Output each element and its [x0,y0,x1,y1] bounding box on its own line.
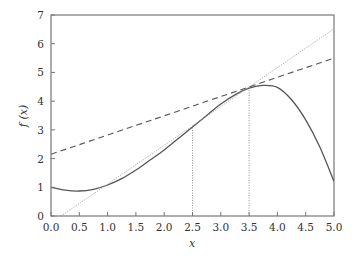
y-tick-label: 0 [37,210,44,222]
x-tick-label: 4.5 [297,221,314,233]
x-tick-label: 5.0 [326,221,343,233]
x-tick-label: 4.0 [269,221,286,233]
y-tick-label: 5 [37,66,44,78]
y-tick-label: 6 [37,38,44,50]
ticks-layer: 0.00.51.01.52.02.53.03.54.04.55.00123456… [37,9,342,233]
y-tick-label: 7 [37,9,44,21]
y-tick-label: 4 [37,95,44,107]
x-tick-label: 2.0 [156,221,173,233]
x-tick-label: 1.5 [128,221,145,233]
chart: 0.00.51.01.52.02.53.03.54.04.55.00123456… [0,0,356,258]
x-tick-label: 0.5 [71,221,88,233]
x-tick-label: 2.5 [184,221,201,233]
y-axis-label: f (x) [17,105,30,128]
y-tick-label: 3 [37,124,44,136]
x-axis-label: x [189,237,196,250]
x-tick-label: 1.0 [99,221,116,233]
y-tick-label: 1 [37,181,44,193]
x-tick-label: 3.0 [212,221,229,233]
x-tick-label: 0.0 [43,221,60,233]
series-layer [51,29,334,216]
x-tick-label: 3.5 [241,221,258,233]
y-tick-label: 2 [37,153,44,165]
series-dashed-line [51,58,334,154]
